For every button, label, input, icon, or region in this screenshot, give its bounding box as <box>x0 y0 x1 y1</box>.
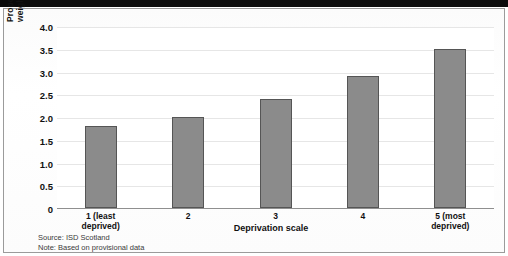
x-tick-label: 4 <box>325 211 401 221</box>
plot-area <box>57 27 494 209</box>
x-tick-label-line: 3 <box>238 211 314 221</box>
gridline <box>57 50 494 51</box>
y-tick-label: 0 <box>5 204 53 215</box>
x-tick-label: 1 (leastdeprived) <box>63 211 139 231</box>
gridline <box>57 27 494 28</box>
x-tick-label-line: 1 (least <box>63 211 139 221</box>
chart-figure: Proportion of births which are of low bi… <box>0 0 508 256</box>
top-black-band <box>0 0 508 7</box>
y-axis-title-line-1: Proportion of births which are of low bi… <box>5 0 15 22</box>
source-line: Source: ISD Scotland <box>38 233 144 243</box>
x-tick-label: 3 <box>238 211 314 221</box>
gridline <box>57 95 494 96</box>
x-tick-label-line: 2 <box>150 211 226 221</box>
x-tick-label-line: deprived) <box>412 221 488 231</box>
bar <box>260 99 292 208</box>
x-axis-title: Deprivation scale <box>186 223 356 233</box>
x-tick-label: 2 <box>150 211 226 221</box>
bar <box>434 49 466 208</box>
y-tick-label: 3.0 <box>5 67 53 78</box>
x-tick-label-line: deprived) <box>63 221 139 231</box>
y-tick-label: 2.0 <box>5 113 53 124</box>
x-axis-baseline <box>57 208 494 209</box>
bar <box>172 117 204 208</box>
gridline <box>57 73 494 74</box>
y-tick-label: 1.0 <box>5 158 53 169</box>
y-tick-label: 0.5 <box>5 181 53 192</box>
x-tick-label: 5 (mostdeprived) <box>412 211 488 231</box>
bar <box>85 126 117 208</box>
y-axis-tick-labels: 4.03.53.02.52.01.51.00.50 <box>0 27 53 209</box>
y-tick-label: 3.5 <box>5 44 53 55</box>
bar <box>347 76 379 208</box>
note-line: Note: Based on provisional data <box>38 243 144 253</box>
y-axis-title-line-2: weight by deprivation category (per cent… <box>15 0 25 22</box>
y-tick-label: 1.5 <box>5 135 53 146</box>
x-tick-label-line: 4 <box>325 211 401 221</box>
y-tick-label: 4.0 <box>5 22 53 33</box>
x-tick-label-line: 5 (most <box>412 211 488 221</box>
chart-footnotes: Source: ISD Scotland Note: Based on prov… <box>38 233 144 252</box>
y-tick-label: 2.5 <box>5 90 53 101</box>
